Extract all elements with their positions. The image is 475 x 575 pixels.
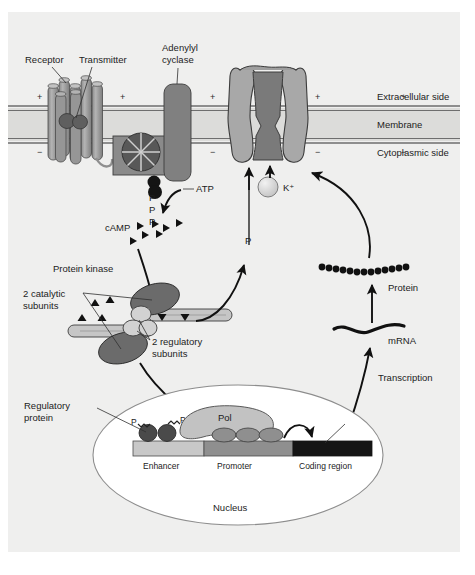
g-protein-pinwheel (122, 133, 160, 171)
receptor-cylinder-7 (92, 82, 103, 160)
label-camp: cAMP (105, 222, 130, 233)
label-extracellular-side: Extracellular side (377, 91, 449, 102)
label-adenylyl-cyclase-line1: Adenylyl (162, 42, 198, 53)
label-enhancer: Enhancer (143, 461, 180, 471)
label-polymerase: Pol (218, 412, 232, 423)
regulatory-protein-bound-2 (158, 425, 176, 442)
camp-triangle-6 (156, 230, 163, 238)
adenylyl-cyclase-label-group: Adenylyl cyclase (162, 42, 198, 84)
kinase-camp-marker-2 (106, 296, 115, 303)
label-regulatory-subunits-line1: 2 regulatory (152, 336, 202, 347)
potassium-ion-group: K⁺ (258, 177, 294, 197)
label-regulatory-protein-line2: protein (24, 412, 53, 423)
kinase-camp-marker-3 (78, 314, 87, 321)
figure-container: + + + + + − − − − − Extracellular side M… (0, 0, 475, 575)
atp-to-camp-arrow (163, 190, 181, 213)
camp-triangle-4 (176, 219, 183, 227)
label-mrna: mRNA (388, 335, 417, 346)
regulatory-core-3 (139, 320, 157, 336)
channel-pore (253, 72, 283, 160)
label-transmitter: Transmitter (79, 54, 127, 65)
charge-plus-3: + (210, 92, 215, 102)
label-protein-kinase: Protein kinase (53, 263, 113, 274)
camp-triangle-7 (130, 237, 137, 245)
label-catalytic-subunits-line1: 2 catalytic (23, 288, 65, 299)
label-transcription: Transcription (378, 372, 433, 383)
label-regulatory-subunits-line2: subunits (152, 348, 188, 359)
label-catalytic-subunits-line2: subunits (23, 300, 59, 311)
potassium-channel[interactable] (228, 66, 308, 162)
label-promoter: Promoter (217, 461, 252, 471)
transcription-factor-1 (212, 428, 236, 442)
camp-triangle-1 (137, 222, 144, 230)
label-membrane: Membrane (377, 119, 422, 130)
adenylyl-cyclase-body (164, 84, 191, 181)
charge-plus-1: + (37, 92, 42, 102)
label-atp: ATP (196, 183, 214, 194)
label-adenylyl-cyclase-line2: cyclase (162, 54, 194, 65)
transcription-factor-2 (236, 428, 260, 442)
camp-molecules (130, 219, 183, 245)
camp-triangle-2 (152, 220, 159, 228)
label-receptor: Receptor (25, 54, 64, 65)
nucleus: Nucleus Enhancer Promoter Coding region … (93, 385, 383, 525)
label-coding-region: Coding region (299, 461, 352, 471)
label-phosphorylation-p: P (245, 235, 251, 246)
protein-chain (319, 264, 410, 276)
adenylyl-cyclase-leader-line (177, 68, 178, 84)
charge-minus-4: − (315, 147, 320, 157)
label-potassium-ion: K⁺ (283, 182, 294, 193)
charge-plus-4: + (315, 92, 320, 102)
protein-kinase-complex[interactable] (68, 278, 232, 370)
label-protein: Protein (388, 282, 418, 293)
channel-extracellular-cap (240, 66, 296, 70)
camp-triangle-3 (163, 224, 170, 232)
charge-minus-3: − (210, 147, 215, 157)
label-regulatory-protein-line1: Regulatory (24, 400, 70, 411)
diagram-canvas: + + + + + − − − − − Extracellular side M… (0, 0, 475, 575)
catalytic-leader-line-bottom (83, 293, 121, 349)
kinase-camp-marker-1 (91, 299, 100, 306)
receptor-complex[interactable] (48, 76, 112, 167)
kinase-camp-marker-4 (98, 314, 107, 321)
dna-coding-segment (293, 441, 372, 456)
transcription-factor-3 (259, 428, 283, 442)
dna-promoter-segment (204, 441, 293, 456)
dna-enhancer-segment (133, 441, 204, 456)
label-nucleus: Nucleus (213, 502, 248, 513)
charge-minus-1: − (37, 147, 42, 157)
phosphate-label-1: P (149, 192, 155, 203)
charge-plus-2: + (120, 92, 125, 102)
protein-to-channel-arrow (312, 173, 370, 258)
potassium-ion-sphere (258, 177, 278, 197)
camp-triangle-5 (142, 231, 149, 239)
mrna-strand (334, 325, 404, 333)
label-cytoplasmic-side: Cytoplasmic side (377, 147, 449, 158)
phosphate-label-2: P (149, 204, 155, 215)
